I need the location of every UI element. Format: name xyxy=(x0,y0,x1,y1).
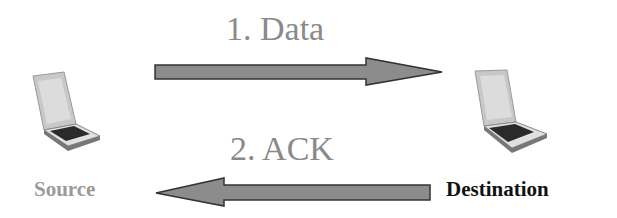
destination-laptop-icon xyxy=(472,64,552,164)
ack-edge-label: 2. ACK xyxy=(230,132,334,166)
destination-label: Destination xyxy=(446,178,549,200)
data-edge-label: 1. Data xyxy=(226,12,324,46)
ack-arrow-left xyxy=(154,176,432,208)
source-laptop-icon xyxy=(30,64,105,164)
source-label: Source xyxy=(34,178,95,200)
data-arrow-right xyxy=(154,56,444,88)
